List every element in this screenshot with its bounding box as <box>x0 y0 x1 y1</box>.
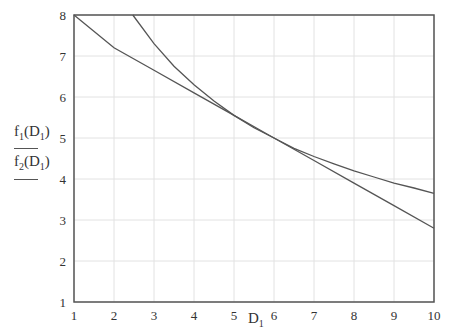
legend-f1-line <box>14 148 38 149</box>
x-tick-label: 2 <box>111 308 118 323</box>
y-tick-label: 1 <box>60 295 67 310</box>
y-axis-legend: f1(D1) f2(D1) <box>14 122 50 180</box>
x-tick-label: 9 <box>391 308 398 323</box>
x-tick-label: 3 <box>151 308 158 323</box>
legend-f1: f1(D1) <box>14 122 50 146</box>
y-tick-label: 6 <box>60 90 67 105</box>
y-tick-label: 2 <box>60 254 67 269</box>
x-tick-label: 4 <box>191 308 198 323</box>
plot-frame <box>74 15 434 302</box>
legend-f2: f2(D1) <box>14 152 50 176</box>
x-axis-label: D1 <box>248 310 264 329</box>
y-tick-label: 7 <box>60 49 67 64</box>
y-tick-label: 8 <box>60 8 67 23</box>
x-tick-label: 6 <box>271 308 278 323</box>
y-tick-label: 4 <box>60 172 67 187</box>
chart: 1234567891012345678 <box>0 0 454 335</box>
x-tick-label: 8 <box>351 308 358 323</box>
series-line-1 <box>133 15 434 193</box>
x-tick-label: 5 <box>231 308 238 323</box>
series-line-2 <box>74 15 434 228</box>
x-tick-label: 1 <box>71 308 78 323</box>
legend-f2-line <box>14 179 38 180</box>
y-tick-label: 3 <box>60 213 67 228</box>
x-tick-label: 10 <box>428 308 441 323</box>
x-tick-label: 7 <box>311 308 318 323</box>
y-tick-label: 5 <box>60 131 67 146</box>
